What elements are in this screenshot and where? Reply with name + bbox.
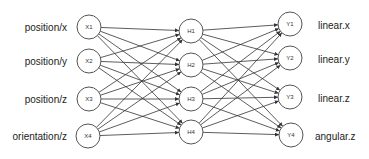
edge-h4-y2 [201,65,281,125]
node-x1: X1 [77,15,101,39]
neural-network-diagram: X1X2X3X4H1H2H3H4Y1Y2Y3Y4 position/xposit… [0,0,369,159]
node-x4: X4 [76,124,100,148]
edge-h2-y4 [201,72,281,128]
edge-x2-h1 [101,34,180,57]
edge-h3-y3 [203,97,278,99]
node-x2: X2 [77,49,101,73]
input-label-x3: position/z [25,94,67,105]
node-label: Y3 [286,94,294,100]
output-label-y1: linear.x [318,20,350,31]
node-label: H3 [187,96,195,102]
node-label: H4 [187,129,195,135]
input-label-x4: orientation/z [13,131,67,142]
node-h4: H4 [179,120,203,144]
edge-x3-h2 [100,69,179,95]
node-label: X3 [85,96,93,102]
output-label-y3: linear.z [318,93,350,104]
node-x3: X3 [77,87,101,111]
node-h2: H2 [179,53,203,77]
node-y2: Y2 [278,46,302,70]
node-y4: Y4 [279,123,303,147]
edge-h4-y4 [203,132,279,134]
node-y1: Y1 [278,12,302,36]
node-label: H1 [187,28,195,34]
output-label-y2: linear.y [318,54,350,65]
node-h3: H3 [179,87,203,111]
node-label: X2 [85,58,93,64]
edge-h2-y1 [202,29,279,61]
node-label: H2 [187,62,195,68]
edge-x4-h4 [100,132,179,135]
node-label: Y1 [286,21,294,27]
input-label-x2: position/y [25,56,67,67]
edge-x1-h1 [101,27,179,30]
output-label-y4: angular.z [315,131,356,142]
node-label: Y4 [287,132,295,138]
node-y3: Y3 [278,85,302,109]
node-label: X1 [85,24,93,30]
edge-x2-h2 [101,61,179,64]
edge-h1-y1 [203,25,278,30]
edge-h4-y1 [199,33,282,123]
edge-x4-h2 [98,72,181,129]
node-label: X4 [84,133,92,139]
edge-x4-h3 [99,103,179,132]
node-label: Y2 [286,55,294,61]
input-label-x1: position/x [25,22,67,33]
edge-x2-h4 [99,68,181,125]
edge-x2-h3 [100,65,180,95]
node-h1: H1 [179,19,203,43]
